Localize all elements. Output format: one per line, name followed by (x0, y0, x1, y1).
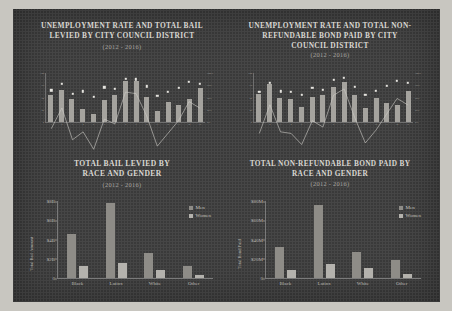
data-point-marker (82, 90, 84, 92)
x-axis-tick: 7 (322, 123, 323, 126)
bar-group (144, 201, 165, 278)
title-line-2: Race and Gender (231, 169, 429, 179)
x-axis-tick: 1 (51, 123, 52, 126)
data-point-marker (279, 90, 281, 92)
bar-men (391, 260, 400, 278)
y-axis-tick: 0 (43, 121, 44, 124)
bar-women (403, 274, 412, 278)
panel-title-bottom-left: Total Bail Levied by Race and Gender (20… (23, 159, 221, 189)
x-axis-tick: 4 (290, 123, 291, 126)
y-axis-tick: 100 (40, 72, 44, 75)
y-axis-tick: $4B (47, 237, 55, 242)
data-point-marker (343, 77, 345, 79)
data-point-marker (188, 81, 190, 83)
bar-women (118, 263, 127, 278)
bar-women (79, 266, 88, 279)
data-point-marker (167, 90, 169, 92)
bar-women (195, 275, 204, 278)
data-point-marker (156, 94, 158, 96)
y2-axis-tick: 50% (207, 96, 212, 99)
data-point-marker (103, 86, 105, 88)
panel-unemployment-bail-by-district: Unemployment Rate and Total Bail Levied … (23, 21, 221, 151)
x-axis-tick: 14 (396, 123, 398, 126)
title-line-2: Race and Gender (23, 169, 221, 179)
x-axis-tick: 15 (198, 123, 200, 126)
bar-group (106, 201, 127, 278)
y-axis-tick: $6B (47, 218, 55, 223)
y2-axis-tick: 0% (207, 121, 210, 124)
legend-swatch-men (189, 206, 193, 210)
y-axis-tick: $60M (251, 218, 263, 223)
title-line-1: Unemployment Rate and Total Non- (231, 21, 429, 31)
bar-men (314, 205, 323, 278)
grouped-bar-chart-bail: Total Bail Amount BlackLatinxWhiteOther$… (23, 201, 221, 293)
data-point-marker (300, 94, 302, 96)
bar-men (275, 247, 284, 278)
x-axis-tick: 7 (114, 123, 115, 126)
x-axis-tick: Black (72, 281, 84, 286)
legend-swatch-women (399, 214, 403, 218)
y-axis-tick: $80M (251, 199, 263, 204)
x-axis-tick: 8 (125, 123, 126, 126)
data-point-marker (50, 89, 52, 91)
panel-subtitle: (2012 - 2016) (231, 51, 429, 59)
x-axis-tick: 10 (353, 123, 355, 126)
y-axis-label: Total Bond Paid (237, 211, 242, 269)
data-point-marker (145, 85, 147, 87)
y2-axis-tick: 75% (207, 84, 212, 87)
legend-item-men: Men (399, 205, 421, 210)
panel-title-top-left: Unemployment Rate and Total Bail Levied … (23, 21, 221, 51)
bar-women (156, 270, 165, 278)
data-point-marker (269, 82, 271, 84)
bar-group (67, 201, 88, 278)
x-axis-tick: 10 (145, 123, 147, 126)
x-axis-tick: 3 (72, 123, 73, 126)
plot-area: 12345678910111213141500%2525%5050%7575%1… (45, 73, 205, 123)
legend-label-women: Women (196, 213, 211, 218)
x-axis-tick: 2 (269, 123, 270, 126)
combo-chart-bail-district: 12345678910111213141500%2525%5050%7575%1… (23, 73, 221, 135)
x-axis-tick: Black (280, 281, 292, 286)
bar-men (183, 266, 192, 279)
poster-canvas: Unemployment Rate and Total Bail Levied … (13, 9, 440, 302)
data-point-marker (198, 83, 200, 85)
x-axis-tick: 6 (312, 123, 313, 126)
data-point-marker (92, 95, 94, 97)
legend: Men Women (189, 205, 211, 221)
y-axis-tick: 25 (41, 108, 44, 111)
y-axis-tick: 100 (248, 72, 252, 75)
title-line-3: Council District (231, 41, 429, 51)
panel-subtitle: (2012 - 2016) (231, 180, 429, 188)
y-axis-tick: 0 (251, 121, 252, 124)
data-point-marker (322, 88, 324, 90)
x-axis-tick: Latinx (318, 281, 331, 286)
legend-item-men: Men (189, 205, 211, 210)
data-point-marker (353, 86, 355, 88)
title-line-2: Refundable Bond Paid by City (231, 31, 429, 41)
legend-label-men: Men (196, 205, 205, 210)
data-point-marker (311, 86, 313, 88)
panel-subtitle: (2012 - 2016) (23, 43, 221, 51)
data-point-marker (61, 83, 63, 85)
x-axis-tick: 13 (385, 123, 387, 126)
y2-axis-tick: 50% (415, 96, 420, 99)
x-axis-tick: Latinx (110, 281, 123, 286)
y-axis-label: Total Bail Amount (29, 209, 34, 271)
y-axis-tick: 0 (53, 276, 56, 281)
y2-axis-tick: 25% (415, 108, 420, 111)
y-axis-tick: 75 (249, 84, 252, 87)
bar-group (275, 201, 296, 278)
trend-line (51, 92, 199, 149)
x-axis-tick: Other (396, 281, 407, 286)
x-axis-tick: 11 (364, 123, 366, 126)
grouped-bar-chart-bond: Total Bond Paid BlackLatinxWhiteOther$80… (231, 201, 429, 293)
bar-women (287, 270, 296, 278)
bar-women (326, 264, 335, 278)
legend-label-women: Women (406, 213, 421, 218)
data-point-marker (396, 80, 398, 82)
data-point-marker (177, 86, 179, 88)
legend-swatch-men (399, 206, 403, 210)
panel-total-bail-by-race-gender: Total Bail Levied by Race and Gender (20… (23, 159, 221, 297)
bar-group (352, 201, 373, 278)
y2-axis-tick: 100% (207, 72, 213, 75)
